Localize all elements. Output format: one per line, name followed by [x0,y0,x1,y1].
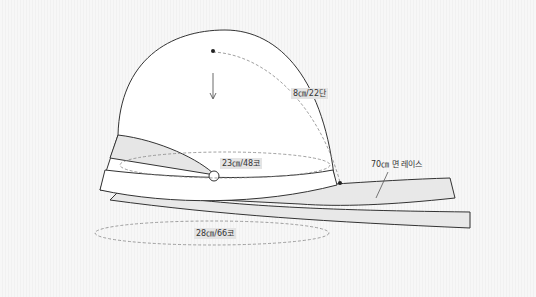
height-label: 8㎝/22단 [291,88,328,99]
height-start-dot-icon [211,49,215,53]
height-end-dot-icon [338,181,342,185]
diagram-canvas: 8㎝/22단 23㎝/48코 28㎝/66코 70㎝ 면 레이스 [0,0,536,297]
hat-diagram [0,0,536,297]
lace-knot-icon [209,171,219,181]
hat-crown [100,30,335,196]
lace-label: 70㎝ 면 레이스 [369,159,424,170]
crown-circumference-label: 23㎝/48코 [220,158,262,169]
brim-circumference-label: 28㎝/66코 [194,228,236,239]
